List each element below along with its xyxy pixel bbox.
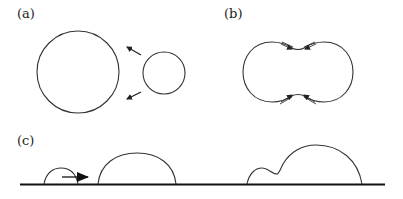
arrow-lower-icon [127, 92, 141, 99]
small-droplet [44, 168, 78, 184]
arrow-bottom-right-head-icon [304, 95, 315, 102]
arrow-top-left-icon [282, 42, 293, 47]
small-circle [143, 52, 185, 94]
panel-a [37, 31, 185, 113]
large-droplet [98, 153, 176, 184]
panel-b [243, 42, 353, 104]
panel-c [20, 145, 385, 185]
diagram-canvas [0, 0, 403, 199]
arrow-upper-icon [127, 47, 141, 55]
coalescing-drops-outline [243, 42, 353, 102]
merging-droplet [247, 145, 362, 184]
arrow-top-right-icon [304, 42, 315, 47]
arrow-bottom-left-head-icon [281, 95, 292, 102]
large-circle [37, 31, 119, 113]
